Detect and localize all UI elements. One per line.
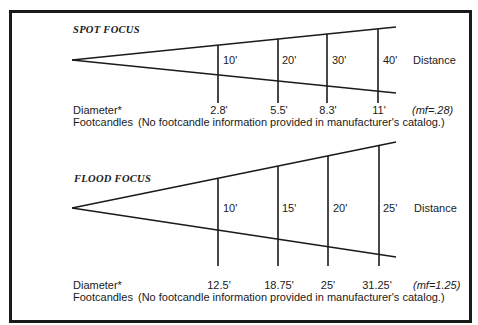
spot-mf-value: (mf=.28)	[412, 104, 453, 116]
beam-spread-diagram	[0, 0, 478, 325]
flood-mf-value: (mf=1.25)	[413, 279, 460, 291]
flood-diameter-2: 18.75'	[264, 279, 294, 291]
flood-footcandles-note: (No footcandle information provided in m…	[138, 291, 445, 303]
spot-diameter-2: 5.5'	[270, 104, 287, 116]
flood-distance-3: 20'	[333, 202, 347, 214]
flood-footcandles-label: Footcandles	[73, 291, 133, 303]
spot-diameter-3: 8.3'	[319, 104, 336, 116]
flood-distance-1: 10'	[223, 202, 237, 214]
flood-distance-label: Distance	[414, 202, 457, 214]
spot-distance-3: 30'	[332, 54, 346, 66]
spot-diameter-label: Diameter*	[73, 104, 122, 116]
spot-distance-1: 10'	[223, 54, 237, 66]
spot-distance-2: 20'	[282, 54, 296, 66]
spot-footcandles-label: Footcandles	[73, 116, 133, 128]
flood-diameter-3: 25'	[321, 279, 335, 291]
spot-diameter-4: 11'	[372, 104, 386, 116]
spot-distance-label: Distance	[413, 54, 456, 66]
flood-diameter-4: 31.25'	[362, 279, 392, 291]
spot-distance-4: 40'	[383, 54, 397, 66]
spot-footcandles-note: (No footcandle information provided in m…	[138, 116, 445, 128]
spot-focus-title: SPOT FOCUS	[73, 24, 140, 36]
flood-cone-bottom-edge	[72, 208, 396, 257]
flood-distance-2: 15'	[282, 202, 296, 214]
flood-distance-4: 25'	[383, 202, 397, 214]
spot-diameter-1: 2.8'	[210, 104, 227, 116]
flood-diameter-label: Diameter*	[73, 279, 122, 291]
flood-diameter-1: 12.5'	[207, 279, 231, 291]
flood-focus-title: FLOOD FOCUS	[74, 173, 151, 185]
